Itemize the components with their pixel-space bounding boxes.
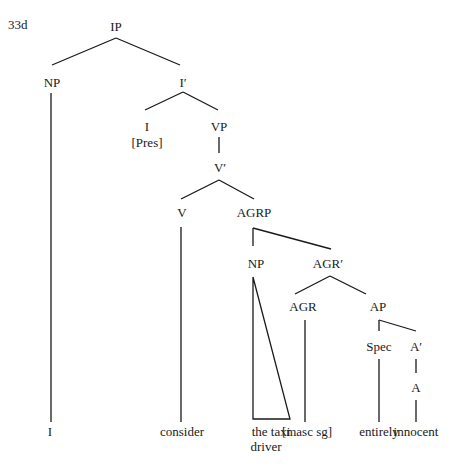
node-pres: [Pres]: [131, 135, 162, 150]
leaf-w_i: I: [48, 424, 52, 439]
node-spec: Spec: [366, 339, 392, 354]
node-ibar: I′: [179, 75, 186, 90]
tree-branch: [52, 38, 116, 65]
tree-branch: [219, 180, 254, 199]
leaf-w_consider: consider: [160, 424, 205, 439]
tree-branch: [379, 320, 416, 331]
leaf-w_driver: driver: [250, 439, 282, 454]
node-np1: NP: [44, 75, 61, 90]
node-agr: AGR: [289, 299, 317, 314]
tree-triangles: [253, 277, 290, 419]
tree-branch: [330, 276, 366, 294]
node-i: I: [145, 119, 149, 134]
node-agrbar: AGR′: [313, 256, 343, 271]
node-v: V: [177, 205, 187, 220]
tree-nodes: IPNPI′I[Pres]VPV′VAGRPNPAGR′AGRAPSpecA′A: [44, 19, 423, 395]
tree-branch: [295, 276, 330, 294]
node-np2: NP: [248, 256, 265, 271]
node-ip: IP: [110, 19, 122, 34]
leaf-w_masc_sg: [masc sg]: [282, 424, 332, 439]
node-abar: A′: [410, 339, 422, 354]
leaf-w_innocent: innocent: [394, 424, 439, 439]
syntax-tree: IPNPI′I[Pres]VPV′VAGRPNPAGR′AGRAPSpecA′A…: [0, 0, 468, 470]
tree-branch: [145, 92, 183, 110]
node-vbar: V′: [214, 160, 226, 175]
tree-leaves: Iconsiderthe taxidriver[masc sg]entirely…: [48, 424, 439, 454]
np-triangle: [253, 277, 290, 419]
node-a: A: [411, 380, 421, 395]
node-ap: AP: [370, 299, 387, 314]
tree-branch: [183, 92, 218, 110]
tree-branch: [253, 228, 331, 249]
node-vp: VP: [211, 119, 228, 134]
node-agrp: AGRP: [237, 205, 272, 220]
tree-branches: [51, 38, 416, 422]
tree-branch: [116, 38, 180, 65]
tree-branch: [181, 180, 219, 199]
